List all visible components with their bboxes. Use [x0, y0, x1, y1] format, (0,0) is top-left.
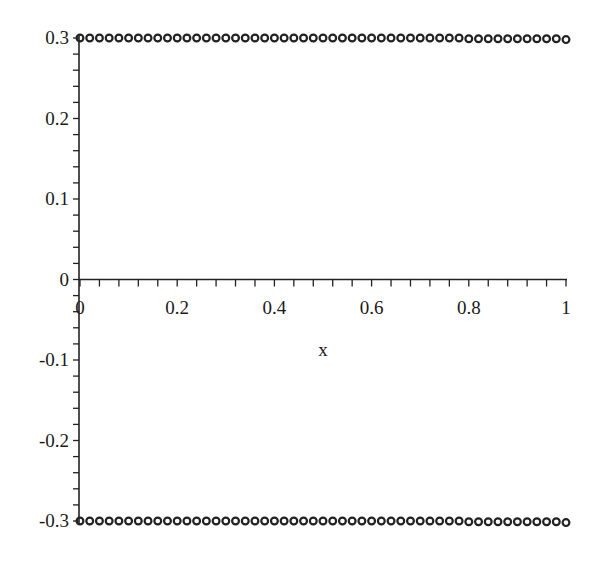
data-point-marker	[135, 518, 142, 525]
data-point-marker	[106, 518, 113, 525]
x-tick-label: 1	[561, 297, 571, 318]
data-point-marker	[485, 518, 492, 525]
series-lower	[77, 518, 570, 526]
data-point-marker	[524, 35, 531, 42]
x-tick-label: 0.6	[360, 297, 384, 318]
data-point-marker	[475, 518, 482, 525]
data-point-marker	[388, 35, 395, 42]
data-point-marker	[543, 35, 550, 42]
data-point-marker	[407, 35, 414, 42]
data-point-marker	[77, 518, 84, 525]
x-tick-label: 0.8	[457, 297, 481, 318]
data-point-marker	[495, 35, 502, 42]
data-point-marker	[417, 518, 424, 525]
data-point-marker	[203, 518, 210, 525]
data-point-marker	[242, 35, 249, 42]
data-point-marker	[563, 36, 570, 43]
data-point-marker	[407, 518, 414, 525]
data-point-marker	[290, 35, 297, 42]
data-point-marker	[358, 518, 365, 525]
series-upper	[77, 35, 570, 43]
y-tick-label: 0.3	[45, 27, 69, 48]
data-point-marker	[184, 35, 191, 42]
data-point-marker	[300, 35, 307, 42]
data-point-marker	[427, 518, 434, 525]
data-point-marker	[222, 518, 229, 525]
data-point-marker	[436, 35, 443, 42]
data-point-marker	[475, 35, 482, 42]
data-point-marker	[388, 518, 395, 525]
data-point-marker	[465, 35, 472, 42]
data-point-marker	[145, 35, 152, 42]
data-point-marker	[164, 518, 171, 525]
data-point-marker	[495, 518, 502, 525]
data-point-marker	[368, 518, 375, 525]
data-point-marker	[193, 35, 200, 42]
data-point-marker	[329, 518, 336, 525]
data-point-marker	[465, 518, 472, 525]
data-point-marker	[115, 518, 122, 525]
data-point-marker	[329, 35, 336, 42]
data-point-marker	[504, 35, 511, 42]
data-point-marker	[456, 518, 463, 525]
data-point-marker	[446, 518, 453, 525]
data-point-marker	[436, 518, 443, 525]
data-point-marker	[125, 35, 132, 42]
data-point-marker	[174, 35, 181, 42]
data-point-marker	[261, 518, 268, 525]
data-point-marker	[184, 518, 191, 525]
data-point-marker	[290, 518, 297, 525]
series-layer	[77, 35, 570, 526]
data-point-marker	[524, 518, 531, 525]
data-point-marker	[456, 35, 463, 42]
data-point-marker	[115, 35, 122, 42]
data-point-marker	[485, 35, 492, 42]
data-point-marker	[86, 518, 93, 525]
data-point-marker	[271, 35, 278, 42]
data-point-marker	[358, 35, 365, 42]
data-point-marker	[252, 518, 259, 525]
data-point-marker	[310, 35, 317, 42]
data-point-marker	[368, 35, 375, 42]
data-point-marker	[543, 518, 550, 525]
data-point-marker	[514, 518, 521, 525]
data-point-marker	[86, 35, 93, 42]
data-point-marker	[154, 35, 161, 42]
data-point-marker	[242, 518, 249, 525]
data-point-marker	[154, 518, 161, 525]
data-point-marker	[339, 35, 346, 42]
data-point-marker	[232, 35, 239, 42]
data-point-marker	[96, 518, 103, 525]
data-point-marker	[203, 35, 210, 42]
data-point-marker	[349, 518, 356, 525]
data-point-marker	[533, 518, 540, 525]
data-point-marker	[504, 518, 511, 525]
data-point-marker	[174, 518, 181, 525]
y-tick-label: 0.1	[45, 188, 69, 209]
x-tick-label: 0	[75, 297, 85, 318]
data-point-marker	[446, 35, 453, 42]
data-point-marker	[378, 518, 385, 525]
data-point-marker	[300, 518, 307, 525]
data-point-marker	[563, 519, 570, 526]
data-point-marker	[77, 35, 84, 42]
data-point-marker	[378, 35, 385, 42]
x-axis-label: x	[318, 339, 328, 360]
data-point-marker	[252, 35, 259, 42]
data-point-marker	[232, 518, 239, 525]
data-point-marker	[533, 35, 540, 42]
data-point-marker	[125, 518, 132, 525]
data-point-marker	[553, 518, 560, 525]
data-point-marker	[514, 35, 521, 42]
y-tick-label: -0.1	[39, 349, 69, 370]
x-tick-label: 0.4	[263, 297, 287, 318]
data-point-marker	[213, 35, 220, 42]
y-tick-label: 0	[60, 269, 70, 290]
data-point-marker	[417, 35, 424, 42]
data-point-marker	[106, 35, 113, 42]
data-point-marker	[310, 518, 317, 525]
axes	[79, 34, 567, 525]
data-point-marker	[320, 35, 327, 42]
data-point-marker	[145, 518, 152, 525]
x-tick-label: 0.2	[165, 297, 189, 318]
